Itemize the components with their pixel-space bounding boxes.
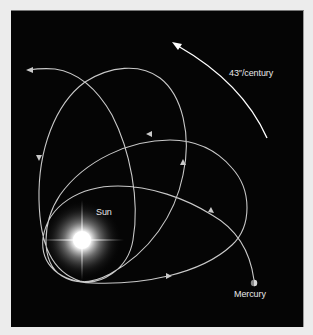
precession-arrow-icon <box>172 42 267 138</box>
sun-label: Sun <box>96 207 112 217</box>
mercury-icon <box>251 280 257 286</box>
orbit-diagram <box>0 0 313 335</box>
mercury-label: Mercury <box>234 289 266 299</box>
arrowhead-icon <box>26 67 33 73</box>
arrowhead-icon <box>146 131 152 137</box>
arrowhead-icon <box>166 273 172 279</box>
arrowhead-icon <box>208 207 214 213</box>
arrowhead-icon <box>36 155 42 161</box>
precession-rate-label: 43″/century <box>229 68 273 78</box>
